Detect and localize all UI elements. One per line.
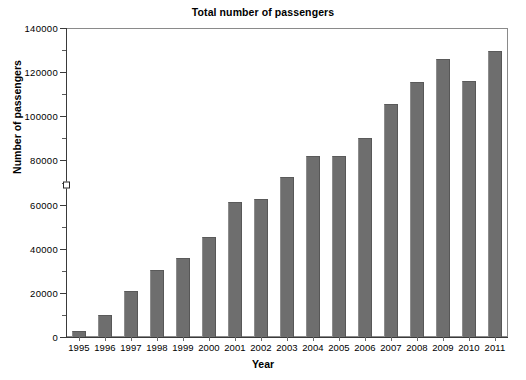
- bar-2009: [436, 59, 450, 337]
- y-tick-80000: [60, 160, 66, 161]
- x-tick-1997: [131, 337, 132, 341]
- x-tick-2003: [287, 337, 288, 341]
- bar-1999: [176, 258, 190, 337]
- x-tick-1998: [157, 337, 158, 341]
- y-tick-140000: [60, 28, 66, 29]
- y-tick-label-40000: 40000: [2, 243, 58, 254]
- chart-title: Total number of passengers: [0, 6, 526, 18]
- y-tick-label-140000: 140000: [2, 23, 58, 34]
- x-tick-2009: [443, 337, 444, 341]
- y-tick-label-60000: 60000: [2, 199, 58, 210]
- bar-2000: [202, 237, 216, 337]
- x-tick-2004: [313, 337, 314, 341]
- bar-2007: [384, 104, 398, 337]
- y-tick-60000: [60, 205, 66, 206]
- x-tick-2007: [391, 337, 392, 341]
- x-tick-2002: [261, 337, 262, 341]
- x-axis-title: Year: [0, 358, 526, 370]
- y-tick-120000: [60, 72, 66, 73]
- bar-2008: [410, 82, 424, 337]
- y-tick-label-20000: 20000: [2, 287, 58, 298]
- bar-1996: [98, 315, 112, 337]
- x-tick-2008: [417, 337, 418, 341]
- y-minor-tick-30000: [62, 271, 66, 272]
- y-minor-tick-130000: [62, 50, 66, 51]
- bar-2005: [332, 156, 346, 337]
- y-minor-tick-50000: [62, 227, 66, 228]
- y-tick-100000: [60, 116, 66, 117]
- bar-2004: [306, 156, 320, 337]
- x-tick-1995: [79, 337, 80, 341]
- bar-2006: [358, 138, 372, 337]
- x-tick-1996: [105, 337, 106, 341]
- axis-marker-square-icon: [63, 181, 70, 188]
- y-minor-tick-10000: [62, 315, 66, 316]
- y-tick-40000: [60, 249, 66, 250]
- y-tick-20000: [60, 293, 66, 294]
- x-tick-1999: [183, 337, 184, 341]
- y-axis-title: Number of passengers: [11, 37, 23, 197]
- y-minor-tick-90000: [62, 138, 66, 139]
- bar-2010: [462, 81, 476, 337]
- x-tick-label-2011: 2011: [475, 342, 515, 353]
- x-tick-2011: [495, 337, 496, 341]
- bar-2001: [228, 202, 242, 337]
- bar-1998: [150, 270, 164, 337]
- bar-2011: [488, 51, 502, 337]
- bar-chart: Total number of passengers 0200004000060…: [0, 0, 526, 380]
- y-tick-0: [60, 337, 66, 338]
- x-tick-2000: [209, 337, 210, 341]
- x-tick-2006: [365, 337, 366, 341]
- x-tick-2010: [469, 337, 470, 341]
- x-tick-2005: [339, 337, 340, 341]
- bar-1997: [124, 291, 138, 337]
- bar-2003: [280, 177, 294, 337]
- x-tick-2001: [235, 337, 236, 341]
- bar-2002: [254, 199, 268, 337]
- y-tick-label-0: 0: [2, 332, 58, 343]
- y-minor-tick-110000: [62, 94, 66, 95]
